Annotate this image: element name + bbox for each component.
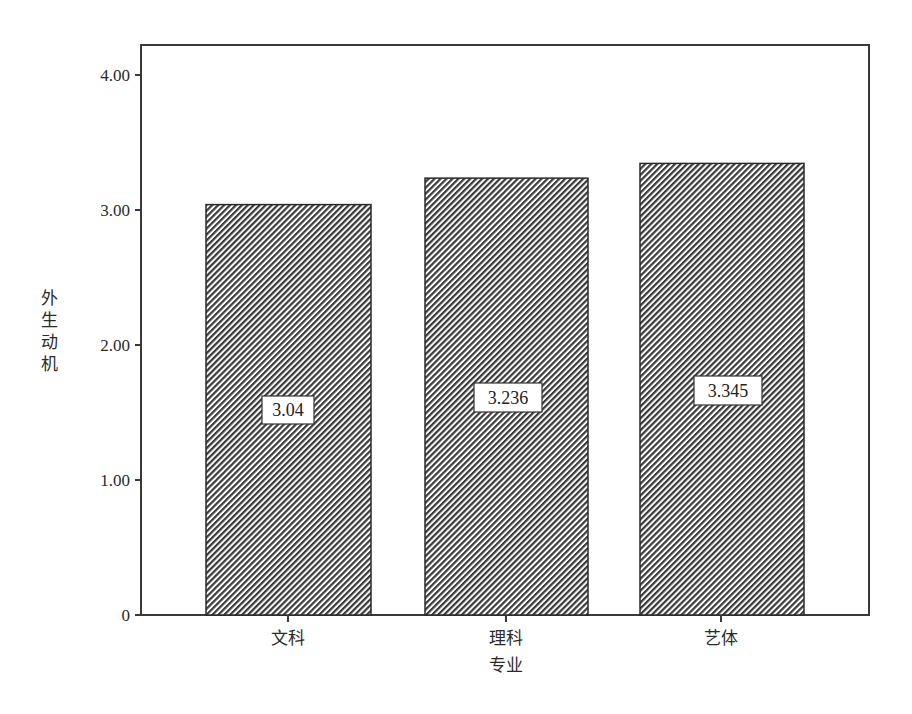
bar-chart: 01.002.003.004.00 3.043.2363.345 文科理科艺体专… <box>0 0 912 714</box>
bars: 3.043.2363.345 <box>206 163 804 615</box>
y-axis-title-char: 机 <box>38 354 60 376</box>
value-label: 3.04 <box>272 400 304 420</box>
y-tick-label: 2.00 <box>100 336 130 355</box>
y-axis-title-char: 生 <box>38 310 60 332</box>
x-tick-label: 艺体 <box>704 628 738 648</box>
y-tick-label: 0 <box>122 606 131 625</box>
x-tick-label: 文科 <box>271 628 305 648</box>
x-axis: 文科理科艺体专业 <box>271 615 738 675</box>
y-axis-title-char: 外 <box>38 288 60 310</box>
x-axis-title: 专业 <box>489 655 523 675</box>
value-label: 3.345 <box>708 381 749 401</box>
y-axis-title: 外 生 动 机 <box>38 288 60 376</box>
value-label: 3.236 <box>488 388 529 408</box>
y-tick-label: 3.00 <box>100 201 130 220</box>
y-axis: 01.002.003.004.00 <box>100 66 141 625</box>
y-tick-label: 4.00 <box>100 66 130 85</box>
y-tick-label: 1.00 <box>100 471 130 490</box>
x-tick-label: 理科 <box>489 628 523 648</box>
y-axis-title-char: 动 <box>38 332 60 354</box>
